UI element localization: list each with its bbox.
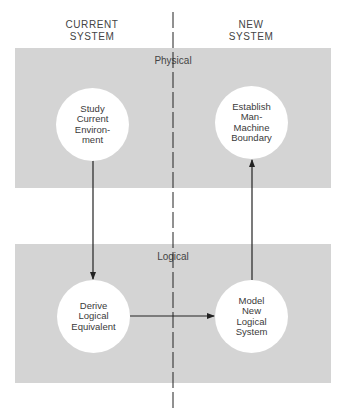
physical-band-label: Physical [15, 55, 331, 66]
current-system-header: CURRENT SYSTEM [42, 19, 142, 43]
node-establish-man-machine-boundary: Establish Man- Machine Boundary [215, 86, 288, 159]
new-system-header: NEW SYSTEM [201, 19, 301, 43]
node-derive-logical-equivalent: Derive Logical Equivalent [57, 280, 130, 353]
logical-band-label: Logical [15, 251, 331, 262]
node-study-current-environment: Study Current Environ- ment [56, 88, 129, 161]
node-model-new-logical-system: Model New Logical System [215, 280, 288, 353]
